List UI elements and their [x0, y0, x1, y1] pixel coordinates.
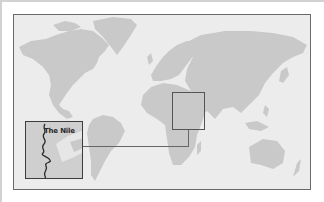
- highlight-region-box: [172, 92, 205, 130]
- japan: [279, 67, 289, 83]
- new-zealand: [293, 159, 301, 177]
- australia: [249, 139, 285, 169]
- connector-line-vertical: [188, 130, 189, 147]
- north-america: [19, 29, 109, 119]
- south-america: [87, 115, 125, 181]
- madagascar: [197, 141, 201, 155]
- philippines: [263, 105, 269, 117]
- nile-inset: The Nile: [25, 121, 83, 179]
- indonesia: [245, 121, 269, 131]
- arctic-islands: [53, 21, 81, 31]
- inset-label: The Nile: [44, 127, 75, 135]
- world-map: The Nile: [13, 14, 311, 190]
- british-isles: [147, 53, 153, 65]
- connector-line-horizontal: [83, 146, 189, 147]
